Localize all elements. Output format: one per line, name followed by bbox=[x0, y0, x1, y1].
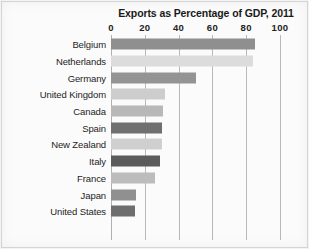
bar-label-spain: Spain bbox=[0, 122, 106, 133]
chart-title: Exports as Percentage of GDP, 2011 bbox=[108, 7, 304, 19]
bar-row: France bbox=[0, 170, 309, 187]
bar-row: Italy bbox=[0, 153, 309, 170]
bar-row: Japan bbox=[0, 186, 309, 203]
x-axis-tick-80: 80 bbox=[241, 22, 252, 33]
bar-japan bbox=[111, 189, 136, 200]
bar-label-germany: Germany bbox=[0, 72, 106, 83]
bar-france bbox=[111, 172, 155, 183]
bar-label-new-zealand: New Zealand bbox=[0, 139, 106, 150]
bar-row: New Zealand bbox=[0, 136, 309, 153]
bar-united-kingdom bbox=[111, 89, 165, 100]
bar-row: Netherlands bbox=[0, 53, 309, 70]
bar-row: Belgium bbox=[0, 36, 309, 53]
bar-netherlands bbox=[111, 55, 253, 66]
x-axis-tick-0: 0 bbox=[108, 22, 114, 33]
bar-label-france: France bbox=[0, 172, 106, 183]
bar-label-united-states: United States bbox=[0, 206, 106, 217]
x-axis-tick-40: 40 bbox=[173, 22, 184, 33]
bar-new-zealand bbox=[111, 139, 162, 150]
bar-belgium bbox=[111, 39, 255, 50]
bar-label-belgium: Belgium bbox=[0, 39, 106, 50]
bar-row: United States bbox=[0, 203, 309, 220]
chart-figure: Exports as Percentage of GDP, 2011 02040… bbox=[0, 0, 309, 249]
bar-row: Canada bbox=[0, 103, 309, 120]
bar-row: Germany bbox=[0, 69, 309, 86]
x-axis-tick-60: 60 bbox=[207, 22, 218, 33]
bar-label-italy: Italy bbox=[0, 156, 106, 167]
bar-label-united-kingdom: United Kingdom bbox=[0, 89, 106, 100]
x-axis-tick-20: 20 bbox=[139, 22, 150, 33]
bar-label-japan: Japan bbox=[0, 189, 106, 200]
x-axis-tick-100: 100 bbox=[272, 22, 289, 33]
bar-row: Spain bbox=[0, 120, 309, 137]
bar-spain bbox=[111, 122, 162, 133]
bar-label-netherlands: Netherlands bbox=[0, 55, 106, 66]
plot-area: BelgiumNetherlandsGermanyUnited KingdomC… bbox=[0, 35, 309, 240]
bar-germany bbox=[111, 72, 196, 83]
bar-united-states bbox=[111, 206, 135, 217]
x-axis: 020406080100 bbox=[0, 22, 309, 35]
bar-italy bbox=[111, 156, 160, 167]
bar-canada bbox=[111, 106, 163, 117]
bar-rows: BelgiumNetherlandsGermanyUnited KingdomC… bbox=[0, 35, 309, 240]
bar-label-canada: Canada bbox=[0, 106, 106, 117]
bar-row: United Kingdom bbox=[0, 86, 309, 103]
